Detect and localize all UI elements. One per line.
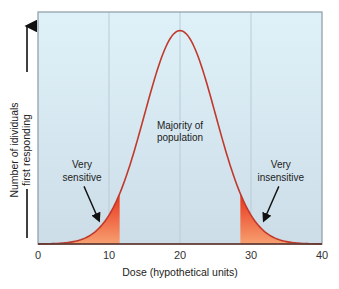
x-tick-label: 20 [174, 249, 186, 261]
y-axis-title: Number of idividuals first responding [8, 102, 32, 197]
very-sensitive-label-line: sensitive [63, 172, 102, 183]
x-axis-title: Dose (hypothetical units) [122, 266, 238, 278]
x-tick-label: 10 [103, 249, 115, 261]
x-tick-label: 40 [316, 249, 328, 261]
majority-label-line: Majority of [157, 120, 203, 131]
y-axis-title-line-2: first responding [20, 114, 32, 186]
very-sensitive-label-line: Very [72, 159, 92, 170]
y-axis-title-line-1: Number of idividuals [8, 102, 20, 197]
x-ticks: 010203040 [35, 249, 328, 261]
majority-label-line: population [157, 132, 203, 143]
very-insensitive-label-line: insensitive [257, 172, 304, 183]
very-insensitive-label-line: Very [271, 159, 291, 170]
majority-label: Majority ofpopulation [157, 120, 203, 144]
x-tick-label: 0 [35, 249, 41, 261]
dose-response-chart: 010203040 Majority ofpopulationVerysensi… [0, 0, 339, 289]
x-tick-label: 30 [245, 249, 257, 261]
